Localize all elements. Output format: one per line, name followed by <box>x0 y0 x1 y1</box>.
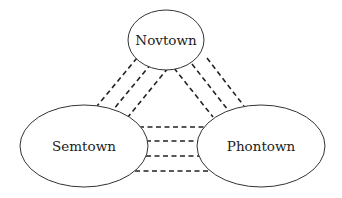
links-novtown-phontown <box>174 58 244 117</box>
semtown-label: Semtown <box>52 138 116 154</box>
link-novtown-phontown-3 <box>207 58 244 106</box>
link-novtown-semtown-3 <box>128 68 168 117</box>
town-network-diagram: Novtown Semtown Phontown <box>0 0 342 198</box>
link-novtown-phontown-1 <box>174 68 213 117</box>
node-novtown: Novtown <box>128 10 204 70</box>
link-novtown-phontown-2 <box>192 64 228 110</box>
link-novtown-semtown-1 <box>97 58 137 106</box>
phontown-label: Phontown <box>227 138 296 154</box>
novtown-label: Novtown <box>135 32 197 48</box>
node-phontown: Phontown <box>197 105 325 187</box>
link-novtown-semtown-2 <box>113 64 151 110</box>
node-semtown: Semtown <box>20 105 148 187</box>
